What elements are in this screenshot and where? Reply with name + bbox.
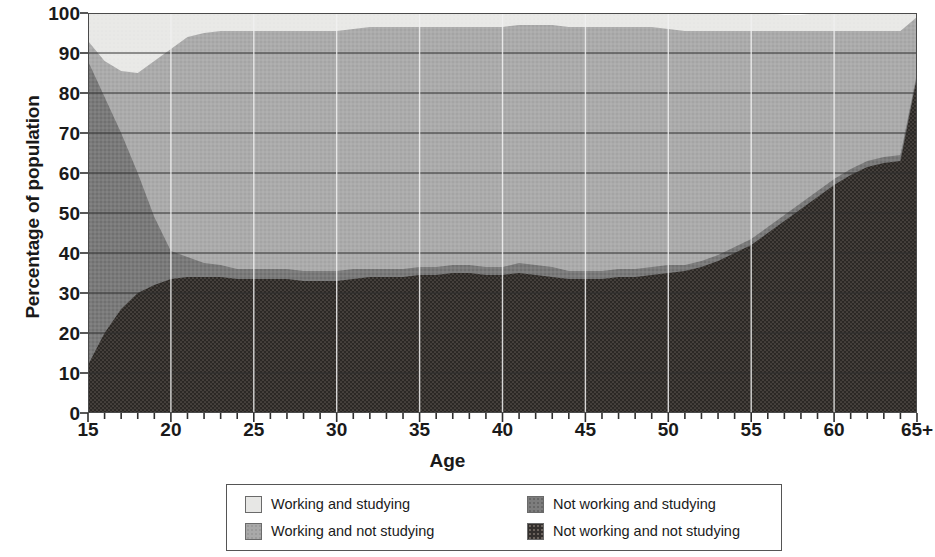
y-axis-tick-label: 100 bbox=[32, 4, 80, 23]
x-axis-tick-label: 50 bbox=[658, 420, 679, 439]
legend-swatch bbox=[527, 523, 544, 540]
x-axis-tick-label: 15 bbox=[77, 420, 98, 439]
x-axis-tick-label: 60 bbox=[824, 420, 845, 439]
legend-label: Working and not studying bbox=[271, 524, 434, 539]
legend-item[interactable]: Not working and not studying bbox=[527, 523, 740, 540]
stacked-area-svg bbox=[88, 13, 917, 413]
y-axis-tick-label: 50 bbox=[32, 204, 80, 223]
y-axis-tick-label: 70 bbox=[32, 124, 80, 143]
y-axis-tick-label: 40 bbox=[32, 244, 80, 263]
x-axis-tick-label: 65+ bbox=[901, 420, 933, 439]
legend-item[interactable]: Working and not studying bbox=[245, 523, 434, 540]
legend-item[interactable]: Not working and studying bbox=[527, 496, 716, 513]
chart-legend: Working and studyingWorking and not stud… bbox=[226, 484, 782, 551]
plot-area bbox=[88, 13, 917, 413]
x-axis-tick-label: 25 bbox=[243, 420, 264, 439]
y-axis-tick-label: 20 bbox=[32, 324, 80, 343]
y-axis-tick-label: 30 bbox=[32, 284, 80, 303]
stacked-area-chart-figure: Percentage of population 010203040506070… bbox=[0, 0, 935, 557]
legend-item[interactable]: Working and studying bbox=[245, 496, 410, 513]
legend-label: Not working and studying bbox=[553, 497, 716, 512]
legend-label: Not working and not studying bbox=[553, 524, 740, 539]
x-axis-title: Age bbox=[0, 450, 935, 472]
y-axis-tick-label: 10 bbox=[32, 364, 80, 383]
y-axis-tick-label: 60 bbox=[32, 164, 80, 183]
x-axis-tick-label: 40 bbox=[492, 420, 513, 439]
legend-swatch bbox=[245, 496, 262, 513]
x-axis-tick-label: 20 bbox=[160, 420, 181, 439]
y-axis-tick-label: 90 bbox=[32, 44, 80, 63]
legend-swatch bbox=[527, 496, 544, 513]
x-axis-tick-labels: 1520253035404550556065+ bbox=[0, 420, 935, 450]
y-axis-tick-label: 80 bbox=[32, 84, 80, 103]
legend-label: Working and studying bbox=[271, 497, 410, 512]
y-axis-tick-labels: 0102030405060708090100 bbox=[28, 0, 80, 430]
x-axis-tick-label: 35 bbox=[409, 420, 430, 439]
x-axis-title-text: Age bbox=[430, 450, 466, 471]
x-axis-tick-label: 30 bbox=[326, 420, 347, 439]
legend-swatch bbox=[245, 523, 262, 540]
x-axis-tick-label: 45 bbox=[575, 420, 596, 439]
x-axis-tick-label: 55 bbox=[741, 420, 762, 439]
